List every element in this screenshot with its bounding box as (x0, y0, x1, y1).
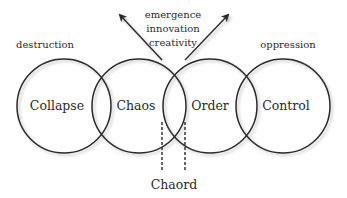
chaord-diagram: destruction oppression emergence innovat… (0, 0, 347, 198)
label-order: Order (191, 98, 229, 113)
label-destruction: destruction (16, 39, 75, 50)
label-emergence: emergence (145, 9, 201, 20)
label-chaos: Chaos (116, 98, 155, 113)
label-control: Control (262, 98, 310, 113)
label-oppression: oppression (260, 39, 316, 50)
label-creativity: creativity (149, 37, 197, 48)
label-innovation: innovation (146, 23, 200, 34)
label-chaord: Chaord (151, 177, 198, 192)
label-collapse: Collapse (30, 98, 84, 113)
